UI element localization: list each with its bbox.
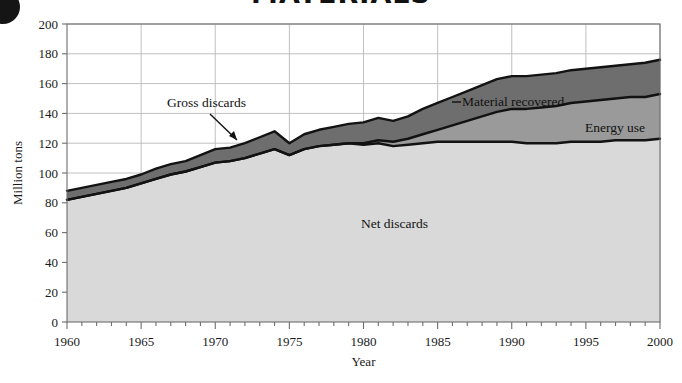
y-tick-label: 80: [45, 195, 58, 210]
y-tick-label: 140: [39, 106, 59, 121]
x-tick-label: 1995: [573, 334, 599, 349]
annotation-gross-discards: Gross discards: [167, 95, 246, 110]
x-tick-label: 1980: [351, 334, 377, 349]
annotation-material-recovered: Material recovered: [462, 94, 565, 109]
area-chart: 0204060801001201401601802001960196519701…: [0, 0, 682, 383]
y-tick-label: 180: [39, 46, 59, 61]
x-axis-title: Year: [352, 354, 377, 369]
y-tick-label: 200: [39, 17, 59, 32]
y-tick-label: 100: [39, 166, 59, 181]
x-tick-label: 1970: [202, 334, 228, 349]
y-tick-label: 60: [45, 225, 58, 240]
y-tick-label: 20: [45, 285, 58, 300]
y-tick-label: 160: [39, 76, 59, 91]
y-tick-label: 120: [39, 136, 59, 151]
y-axis-title: Million tons: [10, 141, 25, 205]
x-tick-label: 1985: [425, 334, 451, 349]
x-tick-label: 1960: [54, 334, 80, 349]
x-tick-label: 1990: [499, 334, 525, 349]
annotation-net-discards: Net discards: [361, 216, 428, 231]
x-tick-label: 1965: [128, 334, 154, 349]
x-tick-label: 2000: [647, 334, 673, 349]
y-tick-label: 0: [52, 315, 59, 330]
annotation-energy-use: Energy use: [585, 120, 645, 135]
figure-title-partial: MATERIALS: [0, 0, 682, 4]
figure-container: MATERIALS 020406080100120140160180200196…: [0, 0, 682, 383]
x-tick-label: 1975: [276, 334, 302, 349]
y-tick-label: 40: [45, 255, 58, 270]
